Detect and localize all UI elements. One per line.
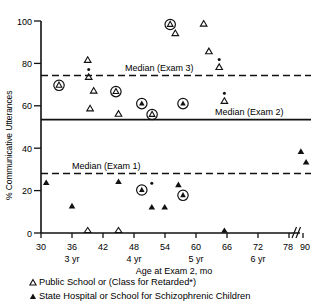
data-point-open-triangle <box>221 98 228 104</box>
x-tick-label-30: 30 <box>36 242 46 252</box>
data-point-circled-open-triangle <box>54 80 64 90</box>
median-exam-1-label: Median (Exam 1) <box>72 161 141 171</box>
data-point-filled-triangle <box>161 204 168 210</box>
series-public-school <box>84 21 227 233</box>
legend-label-public-school: Public School or (Class for Retarded*) <box>39 277 196 287</box>
median-exam-3-label: Median (Exam 3) <box>125 63 194 73</box>
data-point-filled-triangle <box>221 228 228 233</box>
data-point-open-triangle <box>206 48 213 54</box>
x-tick-label-54: 54 <box>160 242 170 252</box>
data-point-filled-triangle <box>303 159 310 165</box>
data-point-circled-open-triangle <box>111 86 121 96</box>
data-point-circled-filled-triangle <box>137 98 147 108</box>
paired-dot <box>218 58 221 61</box>
y-tick-label-20: 20 <box>22 186 32 196</box>
data-point-circled-filled-triangle <box>178 98 188 108</box>
chart-canvas: 100 80 60 40 20 0 % Communicative Uttera… <box>0 0 313 303</box>
scatter-plot-figure: 100 80 60 40 20 0 % Communicative Uttera… <box>0 0 313 303</box>
data-point-open-triangle <box>84 57 91 63</box>
data-point-circled-open-triangle <box>165 19 175 29</box>
y-tick-label-40: 40 <box>22 144 32 154</box>
legend-label-state-hospital: State Hospital or School for Schizophren… <box>39 291 250 301</box>
axes <box>41 21 300 233</box>
paired-dot <box>223 92 226 95</box>
x-tick-label-78: 78 <box>283 242 293 252</box>
data-point-filled-triangle <box>298 148 305 154</box>
data-point-filled-triangle <box>149 204 156 210</box>
data-point-filled-triangle <box>175 182 182 188</box>
x-year-label-4yr: 4 yr <box>126 254 141 264</box>
y-axis-ticks <box>34 21 41 233</box>
data-point-filled-triangle <box>43 180 50 186</box>
y-axis-tick-labels: 100 80 60 40 20 0 <box>17 17 32 239</box>
data-point-open-triangle <box>172 30 179 36</box>
x-year-label-3yr: 3 yr <box>64 254 79 264</box>
legend-marker-open-triangle-icon <box>30 280 36 286</box>
x-axis-title: Age at Exam 2, mo <box>136 266 213 276</box>
median-exam-2-label: Median (Exam 2) <box>215 107 284 117</box>
data-point-open-triangle <box>115 111 122 117</box>
y-tick-label-100: 100 <box>17 17 32 27</box>
x-tick-label-60: 60 <box>191 242 201 252</box>
y-axis-title: % Communicative Utterances <box>4 91 14 200</box>
data-point-open-triangle <box>115 228 122 233</box>
x-tick-label-42: 42 <box>98 242 108 252</box>
x-year-label-6yr: 6 yr <box>250 254 265 264</box>
y-tick-label-80: 80 <box>22 59 32 69</box>
y-tick-label-60: 60 <box>22 101 32 111</box>
x-year-label-5yr: 5 yr <box>188 254 203 264</box>
paired-dot <box>87 68 90 71</box>
data-point-open-triangle <box>85 74 92 80</box>
x-axis-year-labels: 3 yr 4 yr 5 yr 6 yr <box>64 254 265 264</box>
data-point-open-triangle <box>84 228 91 233</box>
x-tick-label-36: 36 <box>67 242 77 252</box>
data-point-circled-filled-triangle <box>178 190 188 200</box>
x-axis-tick-labels: 30 36 42 48 54 60 66 72 78 90 <box>36 242 310 252</box>
data-point-open-triangle <box>216 64 223 70</box>
data-point-open-triangle <box>90 88 97 94</box>
data-point-filled-triangle <box>115 178 122 184</box>
legend-marker-filled-triangle-icon <box>30 294 36 300</box>
x-tick-label-72: 72 <box>253 242 263 252</box>
x-tick-label-90: 90 <box>300 242 310 252</box>
data-point-open-triangle <box>200 21 207 27</box>
data-point-filled-triangle <box>69 203 76 209</box>
paired-dot <box>150 182 153 185</box>
data-point-open-triangle <box>87 105 94 111</box>
y-tick-label-0: 0 <box>27 229 32 239</box>
chart-legend: Public School or (Class for Retarded*) S… <box>30 277 250 301</box>
x-tick-label-48: 48 <box>129 242 139 252</box>
data-point-circled-open-triangle <box>147 109 157 119</box>
x-tick-label-66: 66 <box>222 242 232 252</box>
data-point-circled-filled-triangle <box>137 185 147 195</box>
